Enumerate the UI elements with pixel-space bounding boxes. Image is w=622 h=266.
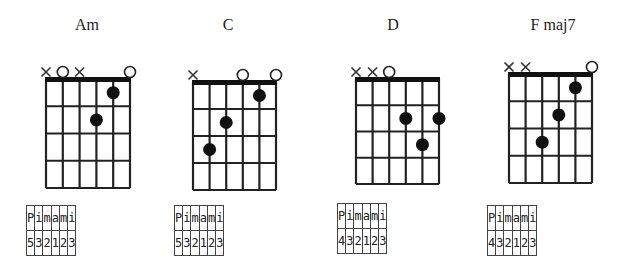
number-cell: 1 xyxy=(512,231,520,256)
chord-name: Am xyxy=(75,16,99,34)
open-string-icon xyxy=(587,62,598,73)
number-cell: 3 xyxy=(529,231,537,256)
finger-dot xyxy=(399,112,412,125)
finger-dot xyxy=(203,143,216,156)
finger-cell: a xyxy=(362,204,370,229)
number-cell: 2 xyxy=(43,231,51,256)
finger-cell: i xyxy=(346,204,354,229)
open-string-icon xyxy=(57,67,68,78)
finger-cell: m xyxy=(43,206,51,231)
number-cell: 1 xyxy=(199,231,207,256)
finger-cell: m xyxy=(59,206,67,231)
open-string-icon xyxy=(271,70,282,81)
chord-name: D xyxy=(387,16,399,34)
muted-string-icon xyxy=(75,68,84,77)
open-string-icon xyxy=(237,70,248,81)
finger-cell: m xyxy=(520,206,528,231)
number-cell: 2 xyxy=(504,231,512,256)
fretboard-grid xyxy=(342,65,453,198)
chord-name: C xyxy=(223,16,234,34)
muted-string-icon xyxy=(521,63,530,72)
finger-cell: i xyxy=(529,206,537,231)
fingering-table: Pimami432123 xyxy=(487,205,537,256)
nut xyxy=(45,77,131,82)
finger-cell: i xyxy=(183,206,191,231)
number-cell: 3 xyxy=(68,231,76,256)
number-row: 532123 xyxy=(175,231,224,256)
number-cell: 3 xyxy=(379,229,387,254)
number-cell: 1 xyxy=(362,229,370,254)
number-cell: 2 xyxy=(370,229,378,254)
muted-string-icon xyxy=(368,68,377,77)
finger-cell: m xyxy=(207,206,215,231)
number-cell: 3 xyxy=(346,229,354,254)
finger-cell: i xyxy=(379,204,387,229)
fingering-table: Pimami532123 xyxy=(174,205,224,256)
fretboard-grid xyxy=(179,68,290,204)
number-row: 432123 xyxy=(338,229,387,254)
number-cell: 5 xyxy=(27,231,35,256)
open-string-icon xyxy=(384,67,395,78)
finger-cell: a xyxy=(51,206,59,231)
finger-dot xyxy=(416,138,429,151)
finger-dot xyxy=(220,116,233,129)
number-row: 432123 xyxy=(488,231,537,256)
chord-name: F maj7 xyxy=(531,16,576,34)
fretboard-grid xyxy=(32,65,144,202)
finger-cell: m xyxy=(504,206,512,231)
finger-dot xyxy=(253,89,266,102)
finger-dot xyxy=(536,136,549,149)
finger-dot xyxy=(90,113,103,126)
nut xyxy=(192,80,277,85)
fingering-table: Pimami532123 xyxy=(26,205,76,256)
muted-string-icon xyxy=(42,68,51,77)
number-cell: 3 xyxy=(183,231,191,256)
finger-cell: m xyxy=(191,206,199,231)
finger-row: Pimami xyxy=(338,204,387,229)
muted-string-icon xyxy=(352,68,361,77)
muted-string-icon xyxy=(505,63,514,72)
number-cell: 4 xyxy=(338,229,346,254)
finger-cell: i xyxy=(496,206,504,231)
finger-cell: a xyxy=(199,206,207,231)
fretboard-grid xyxy=(495,60,606,197)
number-cell: 2 xyxy=(59,231,67,256)
muted-string-icon xyxy=(189,71,198,80)
finger-cell: P xyxy=(175,206,183,231)
number-cell: 3 xyxy=(496,231,504,256)
finger-dot xyxy=(569,81,582,94)
finger-cell: m xyxy=(354,204,362,229)
number-cell: 4 xyxy=(488,231,496,256)
number-cell: 3 xyxy=(216,231,224,256)
finger-cell: i xyxy=(68,206,76,231)
number-cell: 1 xyxy=(51,231,59,256)
nut xyxy=(355,77,440,82)
nut xyxy=(508,72,593,77)
finger-cell: P xyxy=(488,206,496,231)
finger-dot xyxy=(107,86,120,99)
number-cell: 2 xyxy=(520,231,528,256)
number-cell: 5 xyxy=(175,231,183,256)
finger-dot xyxy=(433,112,446,125)
finger-cell: P xyxy=(338,204,346,229)
number-cell: 2 xyxy=(354,229,362,254)
finger-cell: m xyxy=(370,204,378,229)
finger-cell: i xyxy=(35,206,43,231)
fingering-table: Pimami432123 xyxy=(337,203,387,254)
number-cell: 2 xyxy=(207,231,215,256)
finger-row: Pimami xyxy=(175,206,224,231)
number-cell: 3 xyxy=(35,231,43,256)
finger-cell: a xyxy=(512,206,520,231)
finger-cell: i xyxy=(216,206,224,231)
number-cell: 2 xyxy=(191,231,199,256)
finger-cell: P xyxy=(27,206,35,231)
open-string-icon xyxy=(125,67,136,78)
finger-row: Pimami xyxy=(27,206,76,231)
number-row: 532123 xyxy=(27,231,76,256)
finger-row: Pimami xyxy=(488,206,537,231)
finger-dot xyxy=(552,108,565,121)
